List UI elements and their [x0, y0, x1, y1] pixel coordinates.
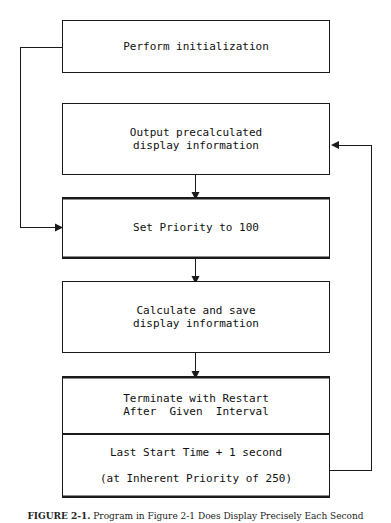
terminate-upper-cell: Terminate with Restart After Given Inter… — [63, 377, 329, 433]
figure-caption-text: Program in Figure 2-1 Does Display Preci… — [93, 511, 363, 521]
right-loop-vertical-segment — [371, 145, 372, 471]
node-output-precalculated[interactable]: Output precalculated display information — [62, 103, 330, 175]
node-calculate-and-save-line-2: display information — [133, 317, 259, 331]
node-calculate-and-save-line-1: Calculate and save — [136, 304, 255, 318]
node-set-priority[interactable]: Set Priority to 100 — [62, 197, 330, 259]
left-loop-top-segment — [20, 47, 62, 48]
connector-setpriority-to-calculate — [195, 259, 196, 281]
figure-caption: FIGURE 2-1. Program in Figure 2-1 Does D… — [0, 511, 391, 522]
terminate-lower-line-2: (at Inherent Priority of 250) — [100, 472, 292, 486]
node-terminate-with-restart[interactable]: Terminate with Restart After Given Inter… — [62, 376, 330, 498]
node-set-priority-line-1: Set Priority to 100 — [133, 221, 259, 235]
right-loop-bottom-segment — [330, 470, 372, 471]
right-loop-top-segment — [336, 145, 372, 146]
terminate-upper-line-2: After Given Interval — [123, 405, 269, 419]
node-output-precalculated-line-2: display information — [133, 139, 259, 153]
flowchart-canvas: Perform initialization Output precalcula… — [0, 0, 391, 523]
node-calculate-and-save[interactable]: Calculate and save display information — [62, 281, 330, 353]
connector-calculate-to-terminate — [195, 353, 196, 376]
node-perform-initialization[interactable]: Perform initialization — [62, 20, 330, 73]
figure-caption-label: FIGURE 2-1. — [27, 511, 90, 521]
node-perform-initialization-line-1: Perform initialization — [123, 40, 269, 54]
terminate-lower-cell: Last Start Time + 1 second (at Inherent … — [63, 435, 329, 497]
terminate-upper-line-1: Terminate with Restart — [123, 392, 269, 406]
connector-output-to-setpriority — [195, 175, 196, 197]
node-output-precalculated-line-1: Output precalculated — [130, 126, 262, 140]
left-loop-vertical-segment — [20, 47, 21, 228]
left-loop-bottom-segment — [20, 227, 58, 228]
terminate-lower-line-1: Last Start Time + 1 second — [110, 446, 282, 460]
